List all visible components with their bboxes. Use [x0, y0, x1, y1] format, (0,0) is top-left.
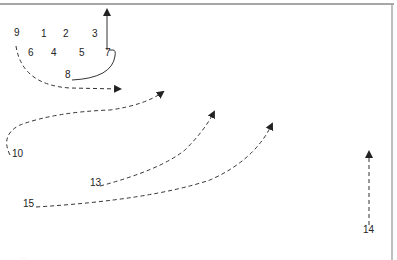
- position-label-15: 15: [23, 199, 34, 209]
- position-label-2: 2: [63, 29, 69, 39]
- play-diagram: 91236457810131514 …: [0, 0, 397, 260]
- diagram-canvas: [0, 0, 397, 260]
- position-label-9: 9: [14, 28, 20, 38]
- position-label-13: 13: [90, 178, 101, 188]
- route-13: [100, 112, 214, 186]
- position-label-10: 10: [12, 149, 23, 159]
- position-label-8: 8: [65, 70, 71, 80]
- route-10: [7, 92, 163, 155]
- position-label-3: 3: [92, 29, 98, 39]
- position-label-6: 6: [28, 48, 34, 58]
- route-15: [36, 124, 272, 207]
- footer-text: …: [20, 253, 28, 260]
- position-label-7: 7: [105, 48, 111, 58]
- position-label-14: 14: [363, 225, 374, 235]
- position-label-4: 4: [51, 48, 57, 58]
- position-label-5: 5: [79, 48, 85, 58]
- position-label-1: 1: [41, 29, 47, 39]
